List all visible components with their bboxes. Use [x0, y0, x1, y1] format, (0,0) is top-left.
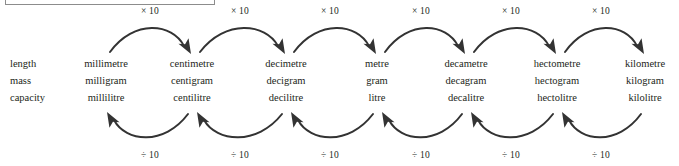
- unit-cell-capacity-hecto: hectolitre: [537, 92, 577, 103]
- multiply-label: × 10: [412, 6, 430, 16]
- unit-cell-mass-deci: decigram: [266, 75, 305, 86]
- row-label-mass: mass: [10, 75, 31, 86]
- unit-cell-capacity-centi: centilitre: [173, 92, 210, 103]
- unit-cell-mass-deca: decagram: [446, 75, 487, 86]
- arrow-divide-head: [557, 109, 574, 128]
- unit-cell-length-base: metre: [365, 58, 389, 69]
- divide-label: ÷ 10: [321, 150, 339, 160]
- multiply-label: × 10: [502, 6, 520, 16]
- unit-cell-length-milli: millimetre: [84, 58, 128, 69]
- unit-cell-mass-kilo: kilogram: [626, 75, 664, 86]
- arrow-multiply-curve: [294, 28, 369, 52]
- unit-cell-length-deca: decametre: [444, 58, 487, 69]
- row-label-capacity: capacity: [10, 92, 45, 103]
- divide-label: ÷ 10: [141, 150, 159, 160]
- arrow-divide-curve: [569, 114, 641, 137]
- divide-label: ÷ 10: [502, 150, 520, 160]
- arrow-divide-curve: [478, 114, 553, 137]
- arrow-multiply-head: [543, 38, 560, 57]
- arrow-divide-curve: [298, 114, 373, 137]
- arrow-multiply-curve: [565, 28, 637, 52]
- multiply-label: × 10: [141, 6, 159, 16]
- arrow-multiply-head: [178, 38, 195, 57]
- divide-label: ÷ 10: [592, 150, 610, 160]
- arrow-multiply-curve: [110, 28, 184, 52]
- title-box: [5, 0, 215, 5]
- multiply-label: × 10: [592, 6, 610, 16]
- arrow-multiply-curve: [474, 28, 549, 52]
- arrow-divide-head: [102, 109, 119, 128]
- arrow-multiply-head: [363, 38, 380, 57]
- unit-cell-mass-centi: centigram: [171, 75, 213, 86]
- arrow-multiply-curve: [385, 28, 458, 52]
- unit-cell-length-kilo: kilometre: [625, 58, 665, 69]
- row-label-length: length: [10, 58, 36, 69]
- arrow-divide-curve: [114, 114, 188, 137]
- arrow-multiply-head: [452, 38, 469, 57]
- unit-cell-mass-milli: milligram: [85, 75, 126, 86]
- arrow-divide-head: [192, 109, 209, 128]
- unit-cell-length-centi: centimetre: [170, 58, 214, 69]
- unit-cell-length-deci: decimetre: [265, 58, 306, 69]
- arrow-multiply-head: [272, 38, 289, 57]
- unit-cell-mass-hecto: hectogram: [535, 75, 579, 86]
- arrow-multiply-curve: [200, 28, 278, 52]
- unit-cell-capacity-deci: decilitre: [269, 92, 303, 103]
- unit-cell-capacity-base: litre: [369, 92, 386, 103]
- arrow-divide-head: [466, 109, 483, 128]
- unit-cell-capacity-milli: millilitre: [88, 92, 125, 103]
- multiply-label: × 10: [321, 6, 339, 16]
- divide-label: ÷ 10: [231, 150, 249, 160]
- arrow-divide-head: [377, 109, 394, 128]
- metric-conversion-diagram: × 10 × 10 × 10 × 10 × 10 × 10 length mas…: [0, 0, 679, 166]
- multiply-label: × 10: [231, 6, 249, 16]
- divide-label: ÷ 10: [412, 150, 430, 160]
- arrow-divide-head: [286, 109, 303, 128]
- arrow-divide-curve: [389, 114, 462, 137]
- unit-cell-capacity-kilo: kilolitre: [628, 92, 661, 103]
- unit-cell-length-hecto: hectometre: [534, 58, 581, 69]
- arrow-multiply-head: [631, 38, 648, 57]
- arrow-divide-curve: [204, 114, 282, 137]
- unit-cell-capacity-deca: decalitre: [448, 92, 484, 103]
- unit-cell-mass-base: gram: [366, 75, 388, 86]
